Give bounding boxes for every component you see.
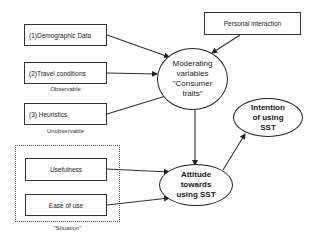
arrow-travel-to-moderating: [107, 73, 157, 74]
ease-of-use-label: Ease of use: [49, 202, 83, 209]
attitude-node: Attitude towards using SST: [159, 164, 233, 206]
unobservable-label: Unobservable: [24, 128, 107, 134]
situation-label: "Situation": [15, 225, 120, 231]
heuristics-label: (3) Heuristics: [29, 111, 67, 118]
intention-label: Intention of using SST: [251, 103, 285, 133]
demographic-data-box: (1)Demographic Data: [24, 24, 107, 46]
moderating-variables-label: Moderating variables "Consumer traits": [172, 59, 212, 99]
attitude-label: Attitude towards using SST: [176, 170, 215, 200]
ease-of-use-box: Ease of use: [25, 194, 107, 216]
observable-label: Observable: [24, 86, 107, 92]
travel-conditions-box: (2)Travel conditions: [24, 62, 107, 84]
heuristics-box: (3) Heuristics: [24, 103, 107, 125]
demographic-data-label: (1)Demographic Data: [29, 32, 91, 39]
usefulness-label: Usefulness: [50, 166, 82, 173]
moderating-variables-node: Moderating variables "Consumer traits": [157, 48, 228, 110]
usefulness-box: Usefulness: [25, 158, 107, 181]
arrow-heuristics-to-moderating: [107, 95, 169, 114]
travel-conditions-label: (2)Travel conditions: [29, 70, 86, 77]
intention-node: Intention of using SST: [233, 98, 303, 137]
personal-interaction-box: Personal interaction: [204, 12, 301, 35]
arrow-demographic-to-moderating: [107, 35, 169, 57]
arrow-attitude-to-intention: [223, 134, 245, 170]
arrow-personal-to-moderating: [212, 35, 240, 53]
personal-interaction-label: Personal interaction: [224, 20, 281, 27]
